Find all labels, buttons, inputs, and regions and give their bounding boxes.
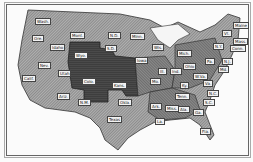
state-label: S.D. (105, 45, 117, 52)
state-label: Nev. (38, 62, 51, 69)
state-label: Va. (203, 80, 213, 87)
state-label: Minn. (130, 33, 145, 40)
state-label: Ariz. (57, 93, 70, 100)
state-label: N.M. (78, 99, 91, 106)
state-label: Texas (107, 116, 122, 123)
state-label: Mont. (70, 32, 85, 39)
state-label: Maine (233, 22, 249, 29)
state-label: Vt. (222, 30, 232, 37)
state-label: Pa. (205, 58, 215, 65)
state-label: Mich. (177, 50, 192, 57)
state-label: Mass. (233, 38, 248, 45)
state-label: N.D. (108, 32, 121, 39)
state-label: Tenn. (175, 93, 190, 100)
state-label: W.Va. (193, 73, 208, 80)
state-label: Wash. (35, 18, 51, 25)
state-label: Ill. (158, 68, 167, 75)
state-label: N.Y. (213, 43, 224, 50)
state-label: Kans. (112, 82, 127, 89)
state-label: Fla. (200, 128, 211, 135)
state-label: Calif. (22, 75, 36, 82)
state-label: Md. (218, 66, 229, 73)
state-label: Colo. (82, 78, 96, 85)
state-label: Wyo. (74, 52, 88, 59)
state-label: Miss. (165, 105, 179, 112)
state-label: Ala. (178, 106, 190, 113)
state-label: Ohio (183, 63, 196, 70)
state-label: N.J. (222, 58, 233, 65)
state-label: La. (155, 118, 165, 125)
state-label: Ind. (170, 68, 182, 75)
state-label: Mo. (150, 78, 161, 85)
state-label: N.C. (207, 90, 219, 97)
state-label: Wis. (152, 44, 164, 51)
state-label: Conn. (230, 45, 246, 52)
state-label: Utah (58, 70, 71, 77)
state-label: Ark. (150, 103, 162, 110)
state-label: Iowa (135, 57, 148, 64)
state-label: Okla. (118, 99, 132, 106)
state-label: S.C. (203, 99, 215, 106)
state-label: Ga. (193, 109, 204, 116)
state-label: Ky. (180, 82, 189, 89)
state-label: Ore. (32, 35, 44, 42)
state-label: Idaho (50, 44, 65, 51)
